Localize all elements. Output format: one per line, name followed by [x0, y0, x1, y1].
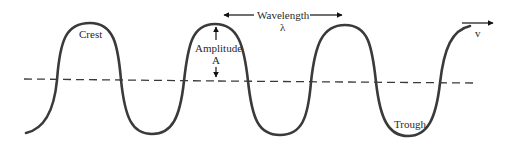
- wave-diagram: Crest Amplitude A Wavelength λ Trough v: [0, 0, 512, 145]
- crest-label: Crest: [79, 28, 102, 40]
- equilibrium-line-2: [218, 81, 473, 83]
- amplitude-symbol: A: [212, 54, 220, 66]
- wavelength-symbol: λ: [280, 21, 286, 33]
- velocity-label: v: [475, 27, 481, 39]
- amplitude-label: Amplitude: [195, 42, 242, 54]
- trough-label: Trough: [394, 118, 426, 130]
- wavelength-label: Wavelength: [257, 9, 310, 21]
